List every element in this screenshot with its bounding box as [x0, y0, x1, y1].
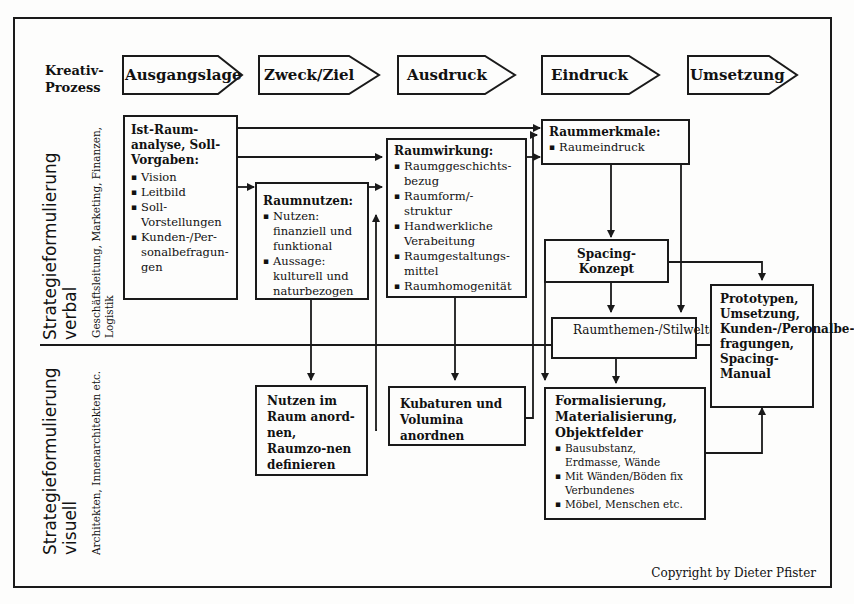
process-step-label: Zweck/Ziel [264, 55, 354, 95]
process-label: Kreativ- Prozess [45, 62, 104, 96]
box-text: Nutzen im Raum anord-nen, Raumzo-nen def… [267, 394, 355, 472]
box-formalisierung: Formalisierung, Materialisierung, Objekt… [544, 387, 706, 520]
process-step-ausdruck: Ausdruck [397, 55, 519, 95]
row-title: verbal [60, 152, 80, 340]
process-step-umsetzung: Umsetzung [687, 55, 799, 95]
box-prototypen: Prototypen, Umsetzung, Kunden-/Peronalbe… [710, 284, 814, 408]
process-step-label: Ausdruck [407, 55, 487, 95]
row-sub: Logistik [103, 127, 116, 338]
row-sub: Geschäftsleitung, Marketing, Finanzen, [90, 127, 103, 338]
list-item: Leitbild [131, 185, 230, 200]
box-title: Raumwirkung: [394, 144, 519, 159]
row-title: Strategieformulierung [40, 367, 60, 555]
process-step-zweck-ziel: Zweck/Ziel [258, 55, 382, 95]
list-item: Handwerkliche Verabeitung [394, 219, 519, 249]
list-item: Aussage: kulturell und naturbezogen [263, 254, 361, 299]
box-kubaturen: Kubaturen und Volumina anordnen [388, 386, 526, 446]
row-label-verbal: Strategieformulierung verbal [40, 152, 80, 340]
row-sublabel-verbal: Geschäftsleitung, Marketing, Finanzen, L… [90, 127, 116, 338]
list-item: Raumhomogenität [394, 279, 519, 294]
process-step-label: Ausgangslage [125, 55, 241, 95]
box-raumthemen: Raumthemen-/Stilweltcollagen [551, 317, 697, 359]
list-item: Soll-Vorstellungen [131, 200, 230, 230]
process-step-ausgangslage: Ausgangslage [122, 55, 244, 95]
list-item: Mit Wänden/Böden fix Verbundenes [555, 469, 695, 497]
list-item: Vision [131, 170, 230, 185]
process-step-eindruck: Eindruck [541, 55, 663, 95]
list-item: Nutzen: finanziell und funktional [263, 209, 361, 254]
process-step-label: Umsetzung [690, 55, 785, 95]
row-label-visuell: Strategieformulierung visuell [40, 367, 80, 555]
list-item: Raumggeschichts-bezug [394, 159, 519, 189]
list-item: Raumgestaltungs-mittel [394, 249, 519, 279]
box-title: Formalisierung, Materialisierung, Objekt… [555, 393, 695, 441]
box-raumwirkung: Raumwirkung: Raumggeschichts-bezug Raumf… [386, 138, 527, 298]
box-title: Raumnutzen: [263, 194, 361, 209]
list-item: Bausubstanz, Erdmasse, Wände [555, 441, 695, 469]
process-step-label: Eindruck [551, 55, 628, 95]
row-sub: Architekten, Innenarchitekten etc. [90, 371, 103, 555]
box-raummerkmale: Raummerkmale: Raumeindruck [541, 119, 690, 165]
list-item: Möbel, Menschen etc. [555, 497, 695, 511]
row-sublabel-visuell: Architekten, Innenarchitekten etc. [90, 371, 103, 555]
process-label-line1: Kreativ- [45, 62, 104, 79]
box-raumnutzen: Raumnutzen: Nutzen: finanziell und funkt… [255, 182, 369, 300]
box-spacing-konzept: Spacing-Konzept [544, 239, 669, 283]
box-title: Raummerkmale: [549, 125, 682, 140]
list-item: Raumeindruck [549, 140, 682, 155]
list-item: Kunden-/Per-sonalbefragun-gen [131, 230, 230, 275]
box-text: Spacing-Konzept [577, 247, 636, 276]
box-nutzen-im-raum: Nutzen im Raum anord-nen, Raumzo-nen def… [255, 385, 368, 476]
row-title: Strategieformulierung [40, 152, 60, 340]
box-ist-raumanalyse: Ist-Raum-analyse, Soll-Vorgaben: Vision … [123, 115, 238, 300]
copyright-text: Copyright by Dieter Pfister [651, 566, 816, 580]
list-item: Raumform/-struktur [394, 189, 519, 219]
box-title: Ist-Raum-analyse, Soll-Vorgaben: [131, 123, 230, 168]
box-text: Kubaturen und Volumina anordnen [400, 397, 502, 443]
row-title: visuell [60, 367, 80, 555]
process-label-line2: Prozess [45, 79, 104, 96]
